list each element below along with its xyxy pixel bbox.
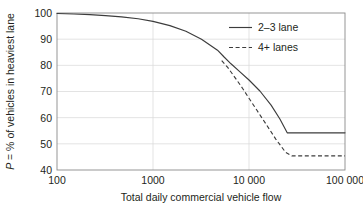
y-axis-title-rest: = % of vehicles in heaviest lane [4,13,16,163]
y-tick-label-100: 100 [34,7,52,19]
x-tick-label-10000: 10 000 [233,174,265,186]
y-tick-label-70: 70 [40,85,52,97]
line-chart: 100 90 80 70 60 50 40 100 1000 10 000 10… [0,0,363,211]
y-tick-label-50: 50 [40,138,52,150]
legend-label-4-plus-lanes: 4+ lanes [258,41,298,53]
x-tick-label-100000: 100 000 [326,174,363,186]
x-tick-labels: 100 1000 10 000 100 000 [48,174,363,186]
y-axis-title: P = % of vehicles in heaviest lane [4,13,16,170]
chart-figure: 100 90 80 70 60 50 40 100 1000 10 000 10… [0,0,363,211]
y-tick-label-60: 60 [40,112,52,124]
y-tick-label-90: 90 [40,33,52,45]
y-tick-label-80: 80 [40,59,52,71]
y-tick-labels: 100 90 80 70 60 50 40 [34,7,52,176]
y-axis-title-variable: P [4,163,16,170]
x-tick-label-100: 100 [48,174,66,186]
x-tick-label-1000: 1000 [141,174,165,186]
x-axis-title: Total daily commercial vehicle flow [121,191,282,203]
legend-label-2-3-lane: 2–3 lane [258,21,298,33]
